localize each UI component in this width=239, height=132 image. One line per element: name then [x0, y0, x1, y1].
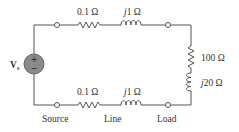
- section-label-source: Source: [42, 114, 68, 124]
- terminal-load-bottom: [166, 103, 171, 108]
- source-plus: +: [31, 55, 38, 64]
- resistor-load: [188, 46, 194, 68]
- top-inductor-label: j1 Ω: [122, 7, 141, 17]
- source-label: Vs: [10, 60, 20, 71]
- inductor-load: [187, 73, 192, 91]
- section-label-load: Load: [157, 114, 177, 124]
- top-resistor-label: 0.1 Ω: [77, 7, 98, 17]
- bottom-inductor-label: j1 Ω: [122, 87, 141, 97]
- inductor-bottom-line: [121, 101, 141, 106]
- resistor-top-line: [78, 22, 100, 28]
- terminal-source-top: [55, 23, 60, 28]
- load-resistor-label: 100 Ω: [201, 53, 225, 63]
- source-minus: −: [31, 64, 38, 73]
- section-label-line: Line: [104, 114, 121, 124]
- circuit-diagram: + − Vs 0.1 Ω j1 Ω 0.1 Ω j1 Ω 100 Ω j20 Ω…: [0, 0, 239, 132]
- terminal-load-top: [166, 23, 171, 28]
- inductor-top-line: [121, 21, 141, 26]
- resistor-bottom-line: [78, 102, 100, 108]
- bottom-resistor-label: 0.1 Ω: [77, 87, 98, 97]
- terminal-source-bottom: [55, 103, 60, 108]
- load-inductor-label: j20 Ω: [199, 78, 223, 88]
